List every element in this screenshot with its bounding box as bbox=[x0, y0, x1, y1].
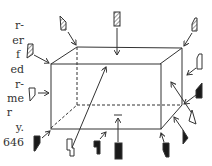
box-diagram bbox=[0, 0, 212, 166]
cuboid bbox=[51, 47, 182, 129]
dark-figure-icon bbox=[115, 143, 122, 159]
dark-figure-icon bbox=[94, 141, 100, 154]
figures bbox=[27, 12, 202, 159]
hatched-figure-icon bbox=[114, 12, 120, 26]
outline-figure-icon bbox=[29, 88, 35, 101]
outline-figure-icon bbox=[197, 54, 202, 69]
dark-figure-icon bbox=[163, 143, 169, 157]
outline-figure-icon bbox=[67, 139, 74, 156]
hatched-figure-icon bbox=[192, 18, 197, 31]
outline-figure-icon bbox=[189, 110, 196, 124]
dark-figure-icon bbox=[196, 83, 202, 98]
dark-figure-icon bbox=[34, 136, 40, 151]
hatched-figure-icon bbox=[27, 44, 33, 58]
hatched-figure-icon bbox=[60, 16, 66, 30]
dark-figure-icon bbox=[183, 130, 188, 144]
arrows bbox=[34, 28, 196, 150]
